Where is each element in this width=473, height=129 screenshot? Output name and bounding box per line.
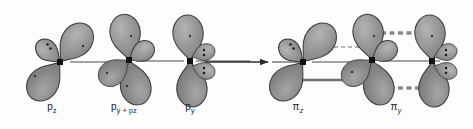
label-piy-sub: y — [398, 107, 402, 114]
node-dot — [373, 35, 375, 37]
label-pz-sub: z — [53, 107, 57, 114]
label-pi-y: πy — [391, 101, 402, 114]
electron-dot — [445, 54, 448, 57]
electron-dot — [445, 72, 448, 75]
label-pz: pz — [47, 101, 56, 114]
label-py: py — [185, 101, 194, 114]
nucleus — [369, 57, 375, 63]
electron-dot — [203, 49, 206, 52]
node-dot — [126, 85, 128, 87]
orbital-diagram-svg — [0, 0, 473, 129]
nucleus — [300, 59, 306, 65]
node-dot — [106, 72, 108, 74]
atom-2-py-pz-orbital — [93, 12, 159, 108]
nucleus — [187, 58, 193, 64]
label-pypz-sub: y + pz — [117, 107, 137, 114]
node-dot — [351, 71, 353, 73]
electron-dot — [46, 43, 49, 46]
node-dot — [82, 45, 84, 47]
electron-dot — [289, 43, 292, 46]
electron-dot — [445, 67, 448, 70]
nucleus — [126, 57, 132, 63]
orbital-diagram-canvas: pz py + pz py πz πy — [0, 0, 473, 129]
atom-5-piz-piy-orbital — [336, 12, 402, 108]
electron-dot — [49, 47, 52, 50]
node-dot — [189, 35, 191, 37]
electron-dot — [292, 47, 295, 50]
electron-dot — [203, 54, 206, 57]
label-py-plus-pz: py + pz — [111, 101, 137, 114]
nucleus — [429, 58, 435, 64]
label-py-sub: y — [191, 107, 195, 114]
label-pi-z: πz — [293, 101, 304, 114]
label-piz-sub: z — [300, 107, 304, 114]
electron-dot — [445, 49, 448, 52]
electron-dot — [203, 67, 206, 70]
node-dot — [431, 35, 433, 37]
node-dot — [130, 35, 132, 37]
electron-dot — [203, 72, 206, 75]
node-dot — [34, 75, 36, 77]
nucleus — [57, 59, 63, 65]
